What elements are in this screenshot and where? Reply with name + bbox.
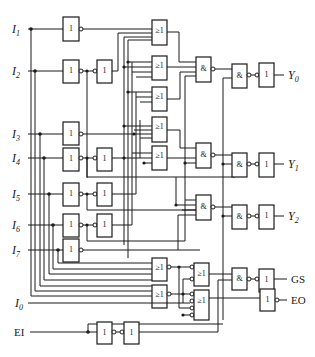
output-label-y2: Y2	[288, 210, 299, 227]
output-label-y0: Y0	[288, 69, 299, 86]
and-gates	[196, 57, 215, 220]
input-wires	[28, 29, 152, 332]
and-gate-symbol: &	[196, 151, 211, 159]
or-gate-symbol: ≥1	[152, 152, 167, 160]
input-label-i3: I3	[12, 128, 20, 145]
or-gate-symbol: ≥1	[152, 27, 167, 35]
not-gate-symbol: 1	[97, 155, 112, 163]
input-label-i6: I6	[12, 219, 20, 236]
and-gate-symbol: &	[232, 72, 247, 80]
not-gate-symbol: 1	[259, 71, 274, 79]
not-gate-symbol: 1	[260, 296, 275, 304]
not-gate-symbol: 1	[63, 25, 79, 33]
not-gate-symbol: 1	[97, 221, 112, 229]
not-gate-symbol: 1	[63, 67, 79, 75]
output-stages	[232, 63, 284, 229]
or-gate-symbol: ≥1	[152, 123, 167, 131]
input-label-ei: EI	[14, 326, 24, 338]
not-gate-symbol: 1	[97, 329, 112, 337]
not-gate-symbol: 1	[97, 190, 112, 198]
or-gate-symbol: ≥1	[152, 62, 167, 70]
and-gate-symbol: &	[196, 65, 211, 73]
not-gate-symbol: 1	[63, 130, 79, 138]
or-to-and-wires	[167, 32, 196, 250]
output-label-gs: GS	[291, 273, 305, 285]
and-gate-symbol: &	[232, 161, 247, 169]
not-gate-symbol: 1	[97, 67, 112, 75]
not-gate-symbol: 1	[63, 221, 79, 229]
logic-diagram: 1 1 1 1 1 1 1 1 1 1 1 ≥1 ≥1 ≥1 ≥1 ≥1 ≥1 …	[0, 0, 315, 357]
or-gate-symbol: ≥1	[194, 297, 209, 305]
not-gate-symbol: 1	[259, 161, 274, 169]
and-gate-symbol: &	[232, 213, 247, 221]
and-gate-symbol: &	[196, 203, 211, 211]
not-gate-symbol: 1	[259, 276, 274, 284]
or-gate-symbol: ≥1	[152, 264, 167, 272]
input-label-i1: I1	[12, 23, 20, 40]
or-gate-symbol: ≥1	[194, 270, 209, 278]
input-label-i2: I2	[12, 65, 20, 82]
input-label-i4: I4	[12, 152, 20, 169]
output-label-y1: Y1	[288, 158, 299, 175]
or-gate-symbol: ≥1	[152, 291, 167, 299]
not-gate-symbol: 1	[63, 190, 79, 198]
or-gate-symbol: ≥1	[152, 93, 167, 101]
input-label-i5: I5	[12, 188, 20, 205]
input-label-i0: I0	[15, 297, 23, 314]
input-label-i7: I7	[12, 244, 20, 261]
input-bus	[31, 29, 152, 296]
not-gate-symbol: 1	[124, 329, 139, 337]
not-gate-symbol: 1	[259, 212, 274, 220]
not-gate-symbol: 1	[63, 246, 79, 254]
not-gate-symbol: 1	[63, 155, 79, 163]
output-label-eo: EO	[291, 294, 306, 306]
and-gate-symbol: &	[232, 275, 247, 283]
